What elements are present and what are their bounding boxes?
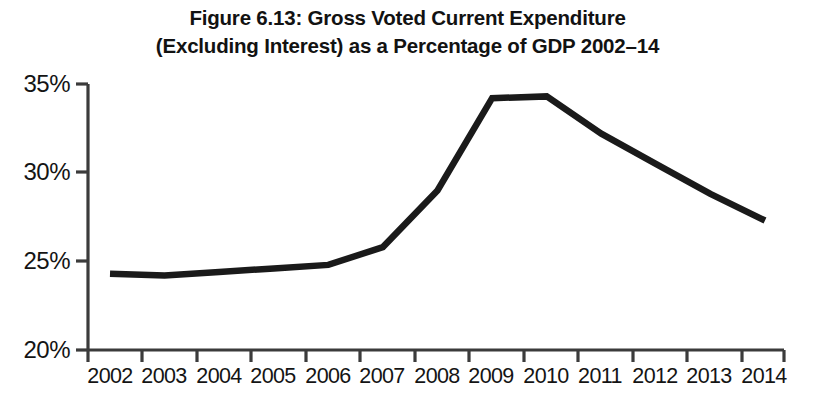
x-axis-label-2014: 2014	[714, 364, 814, 389]
y-axis-label-25: 25%	[0, 247, 70, 275]
axes-group	[88, 84, 784, 350]
y-axis-label-35: 35%	[0, 70, 70, 98]
plot-area: 35% 30% 25% 20% 2002 2003 2004 2005 2006…	[0, 0, 815, 411]
line-chart-svg	[0, 0, 815, 411]
y-axis-ticks	[76, 84, 88, 350]
y-axis-label-20: 20%	[0, 336, 70, 364]
data-series-line	[110, 96, 765, 275]
figure-container: Figure 6.13: Gross Voted Current Expendi…	[0, 0, 815, 411]
x-axis-ticks	[88, 350, 784, 362]
y-axis-label-30: 30%	[0, 158, 70, 186]
